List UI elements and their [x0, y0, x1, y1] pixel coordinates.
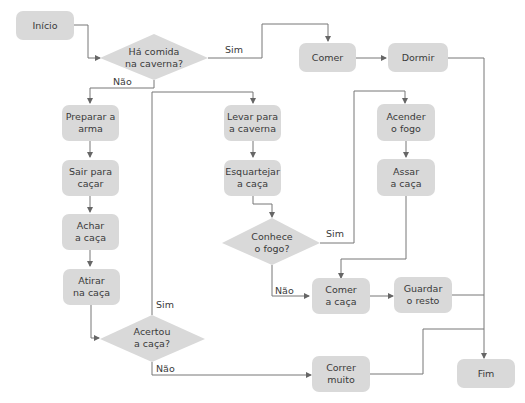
node-dormir-label: Dormir — [402, 52, 435, 64]
node-preparar-arma-line1: Preparar a — [66, 111, 115, 123]
node-inicio-label: Início — [32, 20, 57, 32]
node-levar-caverna: Levar para a caverna — [224, 105, 281, 141]
node-comer-caca: Comer a caça — [312, 278, 370, 314]
node-acender-fogo-line1: Acender — [386, 111, 425, 123]
node-guardar-resto: Guardar o resto — [394, 277, 452, 313]
node-esquartejar-line1: Esquartejar — [225, 166, 280, 178]
node-correr-muito: Correr muito — [312, 356, 370, 392]
node-sair-cacar: Sair para caçar — [62, 160, 119, 196]
node-sair-cacar-line2: caçar — [78, 178, 104, 190]
node-achar-caca-line2: a caça — [75, 232, 106, 244]
node-atirar-caca-line2: na caça — [73, 287, 110, 299]
node-acender-fogo-line2: o fogo — [391, 123, 421, 135]
node-achar-caca: Achar a caça — [62, 214, 119, 250]
node-ha-comida-line1: Há comida — [129, 46, 180, 58]
node-ha-comida-line2: na caverna? — [125, 58, 183, 70]
node-dormir: Dormir — [388, 43, 448, 72]
node-correr-muito-line2: muito — [327, 374, 354, 386]
node-ha-comida: Há comida na caverna? — [114, 44, 194, 72]
node-comer-label: Comer — [312, 52, 343, 64]
flowchart-canvas: Início Comer Dormir Preparar a arma Sair… — [0, 0, 525, 403]
node-preparar-arma: Preparar a arma — [62, 105, 119, 141]
edge-label-ha-comida-nao: Não — [113, 76, 132, 87]
edge-label-ha-comida-sim: Sim — [225, 44, 243, 55]
edge-atirar-acertou — [91, 305, 99, 338]
node-correr-muito-line1: Correr — [326, 362, 356, 374]
node-acertou-line1: Acertou — [134, 326, 171, 338]
edge-label-acertou-nao: Não — [156, 363, 175, 374]
edge-esquartejar-conhece — [253, 196, 272, 217]
edge-label-conhece-fogo-nao: Não — [275, 285, 294, 296]
node-preparar-arma-line2: arma — [78, 123, 103, 135]
edge-acertou-correr — [152, 362, 311, 375]
edge-label-conhece-fogo-sim: Sim — [326, 228, 344, 239]
node-atirar-caca: Atirar na caça — [63, 269, 120, 305]
node-achar-caca-line1: Achar — [77, 220, 104, 232]
node-assar-caca-line2: a caça — [391, 178, 422, 190]
node-inicio: Início — [16, 11, 74, 40]
node-comer-caca-line1: Comer — [325, 284, 356, 296]
edge-dormir-fim — [448, 58, 484, 358]
node-acertou-line2: a caça? — [134, 338, 170, 350]
node-comer: Comer — [299, 43, 356, 72]
node-atirar-caca-line1: Atirar — [78, 275, 104, 287]
node-conhece-fogo: Conhece o fogo? — [236, 229, 308, 257]
node-conhece-fogo-line2: o fogo? — [255, 243, 290, 255]
node-assar-caca: Assar a caça — [377, 159, 435, 196]
node-guardar-resto-line1: Guardar — [404, 283, 443, 295]
node-fim-label: Fim — [478, 368, 495, 380]
node-assar-caca-line1: Assar — [393, 166, 419, 178]
node-acender-fogo: Acender o fogo — [377, 104, 435, 141]
node-levar-caverna-line1: Levar para — [227, 111, 278, 123]
node-conhece-fogo-line1: Conhece — [251, 231, 292, 243]
edge-inicio-hacomida — [74, 25, 100, 58]
edge-label-acertou-sim: Sim — [156, 299, 174, 310]
node-esquartejar: Esquartejar a caça — [224, 160, 281, 196]
node-guardar-resto-line2: o resto — [407, 295, 440, 307]
node-fim: Fim — [457, 359, 515, 388]
node-levar-caverna-line2: a caverna — [229, 123, 276, 135]
node-esquartejar-line2: a caça — [237, 178, 268, 190]
node-comer-caca-line2: a caça — [326, 296, 357, 308]
edge-assar-comercaca — [341, 196, 406, 278]
node-acertou: Acertou a caça? — [116, 324, 188, 352]
node-sair-cacar-line1: Sair para — [69, 166, 112, 178]
